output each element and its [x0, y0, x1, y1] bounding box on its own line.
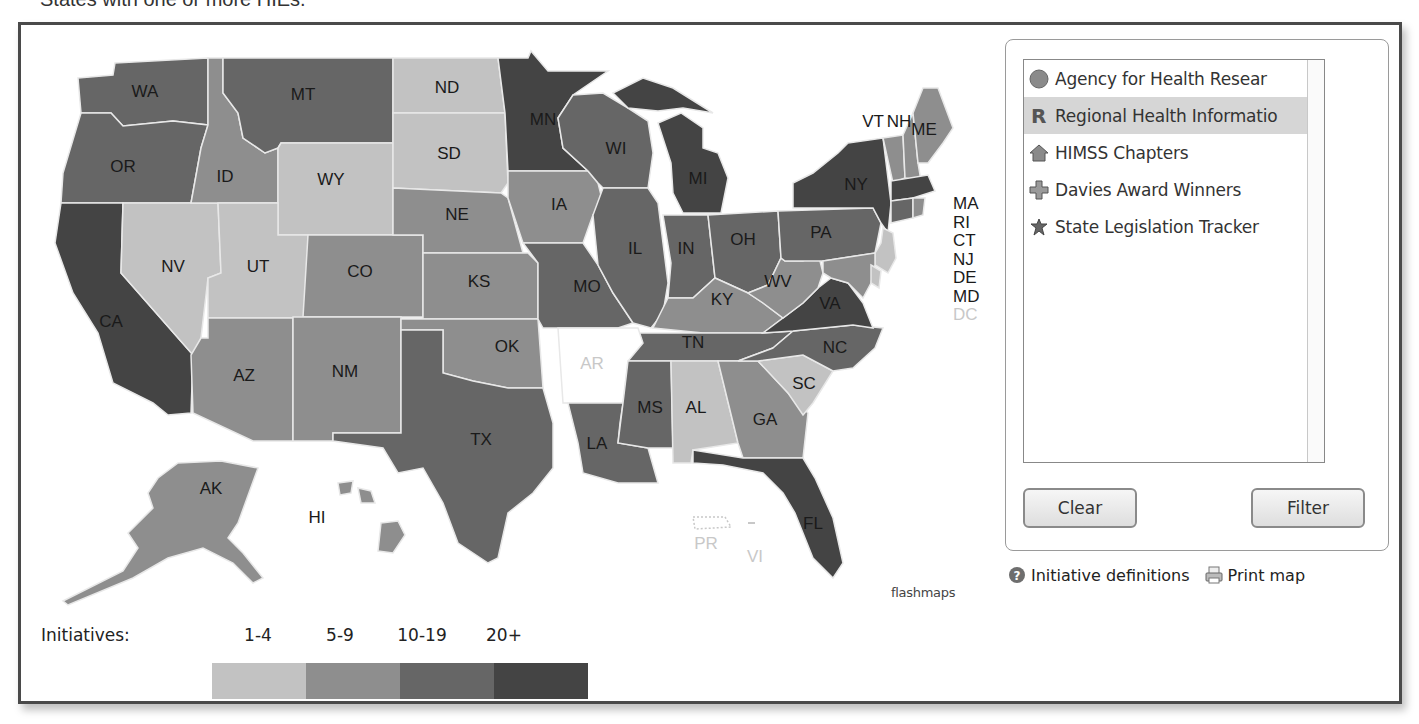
svg-text:IL: IL	[628, 239, 642, 258]
legend-swatch-10-19	[400, 663, 494, 699]
layer-label: HIMSS Chapters	[1055, 143, 1188, 163]
svg-text:AK: AK	[200, 479, 223, 498]
svg-text:NV: NV	[161, 257, 185, 276]
svg-text:ME: ME	[911, 120, 937, 139]
layer-filter-panel: Agency for Health Resear R Regional Heal…	[1005, 39, 1389, 551]
legend-title: Initiatives:	[41, 625, 130, 645]
map-links: ? Initiative definitions Print map	[1007, 565, 1319, 585]
svg-text:OR: OR	[110, 157, 136, 176]
svg-text:NM: NM	[332, 362, 358, 381]
label-DC[interactable]: DC	[953, 306, 979, 325]
legend-range-2: 5-9	[299, 625, 381, 645]
state-HI[interactable]	[378, 521, 405, 553]
printer-icon	[1204, 565, 1224, 585]
filter-button[interactable]: Filter	[1251, 488, 1365, 528]
svg-text:MN: MN	[530, 110, 556, 129]
page-caption: States with one or more HIEs.	[40, 0, 306, 11]
territory-PR[interactable]	[693, 517, 731, 529]
layer-list[interactable]: Agency for Health Resear R Regional Heal…	[1023, 59, 1325, 463]
layer-item-himss[interactable]: HIMSS Chapters	[1024, 134, 1324, 171]
svg-text:IA: IA	[551, 195, 568, 214]
svg-text:NE: NE	[445, 205, 469, 224]
svg-text:WI: WI	[606, 139, 627, 158]
svg-text:KS: KS	[468, 272, 491, 291]
svg-text:?: ?	[1014, 569, 1021, 583]
state-CT[interactable]	[891, 198, 913, 223]
svg-text:AR: AR	[580, 354, 604, 373]
svg-text:NC: NC	[823, 338, 848, 357]
r-letter-icon: R	[1028, 105, 1050, 127]
state-AK[interactable]	[63, 461, 263, 605]
state-MT[interactable]	[223, 58, 393, 153]
layer-label: Regional Health Informatio	[1055, 106, 1277, 126]
layer-item-rhio[interactable]: R Regional Health Informatio	[1024, 97, 1324, 134]
initiative-definitions-link[interactable]: ? Initiative definitions	[1007, 565, 1190, 585]
small-state-labels: MA RI CT NJ DE MD DC	[953, 195, 979, 325]
svg-text:SD: SD	[437, 144, 461, 163]
svg-text:IN: IN	[678, 239, 695, 258]
svg-text:MI: MI	[689, 169, 708, 188]
svg-text:VT: VT	[862, 112, 884, 131]
svg-text:WY: WY	[317, 170, 344, 189]
initiative-definitions-label: Initiative definitions	[1031, 566, 1190, 585]
state-MI[interactable]	[658, 113, 728, 213]
svg-text:ID: ID	[217, 167, 234, 186]
svg-text:WV: WV	[764, 272, 792, 291]
legend-range-4: 20+	[463, 625, 545, 645]
svg-text:FL: FL	[803, 514, 823, 533]
svg-text:NY: NY	[844, 175, 868, 194]
layer-item-legislation[interactable]: State Legislation Tracker	[1024, 208, 1324, 245]
svg-text:UT: UT	[247, 257, 270, 276]
circle-icon	[1028, 68, 1050, 90]
svg-text:PA: PA	[810, 223, 832, 242]
svg-text:CA: CA	[99, 312, 123, 331]
plus-icon	[1028, 179, 1050, 201]
svg-text:LA: LA	[587, 434, 608, 453]
svg-text:CO: CO	[347, 262, 373, 281]
layer-list-scrollbar[interactable]	[1307, 60, 1324, 462]
map-frame: WA MT ND MN OR ID WY SD WI MI NE IA NV U…	[18, 22, 1402, 704]
svg-text:TN: TN	[682, 333, 705, 352]
label-RI[interactable]: RI	[953, 214, 979, 233]
label-CT[interactable]: CT	[953, 232, 979, 251]
legend-swatch-5-9	[306, 663, 400, 699]
svg-text:HI: HI	[309, 508, 326, 527]
help-icon: ?	[1007, 565, 1027, 585]
svg-text:VI: VI	[747, 547, 763, 566]
state-MI-upper[interactable]	[613, 78, 713, 113]
svg-text:PR: PR	[694, 534, 718, 553]
clear-button[interactable]: Clear	[1023, 488, 1137, 528]
svg-text:SC: SC	[792, 374, 816, 393]
state-HI-small1[interactable]	[338, 481, 353, 495]
svg-text:OH: OH	[730, 230, 756, 249]
flashmaps-credit: flashmaps	[891, 585, 955, 600]
svg-text:MT: MT	[291, 85, 316, 104]
layer-label: State Legislation Tracker	[1055, 217, 1259, 237]
star-badge-icon	[1028, 216, 1050, 238]
state-HI-small2[interactable]	[358, 488, 375, 503]
layer-label: Davies Award Winners	[1055, 180, 1241, 200]
legend-range-3: 10-19	[381, 625, 463, 645]
house-icon	[1028, 142, 1050, 164]
print-map-link[interactable]: Print map	[1204, 565, 1305, 585]
legend-swatch-1-4	[212, 663, 306, 699]
svg-text:MS: MS	[637, 398, 663, 417]
svg-text:AL: AL	[686, 398, 707, 417]
svg-text:TX: TX	[470, 430, 492, 449]
svg-text:R: R	[1031, 105, 1046, 127]
svg-text:OK: OK	[495, 337, 520, 356]
svg-text:VA: VA	[819, 294, 841, 313]
print-map-label: Print map	[1228, 566, 1305, 585]
layer-item-davies[interactable]: Davies Award Winners	[1024, 171, 1324, 208]
state-RI[interactable]	[913, 198, 925, 218]
svg-text:WA: WA	[132, 82, 159, 101]
label-MA[interactable]: MA	[953, 195, 979, 214]
svg-text:GA: GA	[753, 410, 778, 429]
label-MD[interactable]: MD	[953, 288, 979, 307]
label-NJ[interactable]: NJ	[953, 251, 979, 270]
label-DE[interactable]: DE	[953, 269, 979, 288]
layer-item-agency[interactable]: Agency for Health Resear	[1024, 60, 1324, 97]
layer-label: Agency for Health Resear	[1055, 69, 1267, 89]
svg-text:ND: ND	[435, 78, 460, 97]
legend-swatch-20-plus	[494, 663, 588, 699]
